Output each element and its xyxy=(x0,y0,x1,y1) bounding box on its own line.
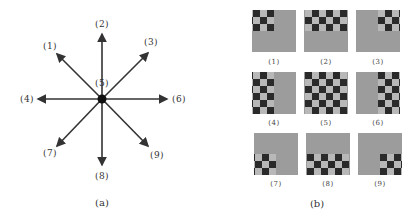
checkerboard-tile-9 xyxy=(358,133,402,175)
checkerboard-tile-1 xyxy=(252,10,296,52)
checkerboard-tile-5 xyxy=(304,72,348,114)
panel-b-caption: (b) xyxy=(310,198,324,209)
direction-label-9: (9) xyxy=(150,150,164,160)
arrow-direction-7 xyxy=(57,99,102,146)
tile-label-6: (6) xyxy=(372,119,383,127)
arrow-direction-3 xyxy=(102,53,148,99)
tile-label-3: (3) xyxy=(372,58,383,66)
checkerboard-tile-4 xyxy=(252,72,296,114)
tile-label-8: (8) xyxy=(322,180,333,188)
direction-label-2: (2) xyxy=(95,19,109,29)
arrow-direction-9 xyxy=(102,99,148,146)
checkerboard-tile-2 xyxy=(304,10,348,52)
checkerboard-tile-3 xyxy=(356,10,400,52)
panel-a-caption: (a) xyxy=(95,197,109,208)
center-dot xyxy=(98,95,107,104)
direction-label-3: (3) xyxy=(144,37,158,47)
direction-label-4: (4) xyxy=(20,94,34,104)
direction-label-6: (6) xyxy=(172,94,186,104)
tile-label-1: (1) xyxy=(268,58,279,66)
checkerboard-tile-7 xyxy=(254,133,298,175)
tile-label-4: (4) xyxy=(268,119,279,127)
tile-label-9: (9) xyxy=(374,180,385,188)
checkerboard-tile-8 xyxy=(306,133,350,175)
direction-label-1: (1) xyxy=(43,41,57,51)
direction-label-5: (5) xyxy=(95,78,109,88)
tile-label-2: (2) xyxy=(320,58,331,66)
direction-label-7: (7) xyxy=(43,148,57,158)
direction-arrows xyxy=(0,0,210,222)
arrow-direction-1 xyxy=(57,54,102,99)
tile-label-5: (5) xyxy=(320,119,331,127)
direction-label-8: (8) xyxy=(95,171,109,181)
checkerboard-tile-6 xyxy=(356,72,400,114)
panel-a-direction-diagram: (1)(2)(3)(4)(5)(6)(7)(8)(9) (a) xyxy=(0,0,210,222)
tile-label-7: (7) xyxy=(270,180,281,188)
